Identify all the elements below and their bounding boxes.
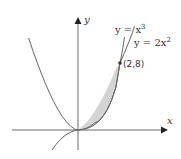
point-label: (2,8) — [123, 59, 144, 69]
shaded-region — [78, 63, 120, 130]
parabola-label-base: y = 2x — [133, 37, 167, 48]
parabola-label: y = 2x2 — [133, 36, 171, 48]
x-axis-arrow-icon — [161, 127, 168, 134]
parabola-label-exponent: 2 — [166, 36, 170, 44]
graph-canvas: (2,8) y = x3 y = 2x2 y x — [0, 0, 181, 159]
cubic-curve-y-x3 — [52, 37, 125, 150]
cubic-label-base: y = x — [114, 24, 141, 35]
intersection-point-marker — [118, 61, 122, 65]
cubic-label-exponent: 3 — [141, 23, 145, 31]
y-axis-label: y — [83, 14, 90, 25]
cubic-label: y = x3 — [114, 23, 146, 35]
parabola-y-2x2 — [29, 26, 135, 130]
y-axis-arrow-icon — [75, 17, 82, 24]
x-axis-label: x — [167, 115, 173, 126]
